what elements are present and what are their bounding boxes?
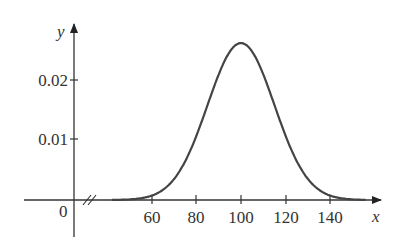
x-tick-label: 120 [273,208,299,227]
y-axis-label: y [55,22,65,41]
x-axis-label: x [371,207,380,226]
x-tick-label: 80 [188,208,205,227]
chart: 0.02 0.01 y 60 80 100 120 140 x 0 [0,0,401,251]
origin-label: 0 [59,202,68,221]
x-tick-label: 60 [144,208,161,227]
x-tick-label: 140 [317,208,343,227]
y-tick-label: 0.01 [38,130,68,149]
density-curve [112,43,366,200]
y-tick-label: 0.02 [38,71,68,90]
x-tick-label: 100 [228,208,254,227]
